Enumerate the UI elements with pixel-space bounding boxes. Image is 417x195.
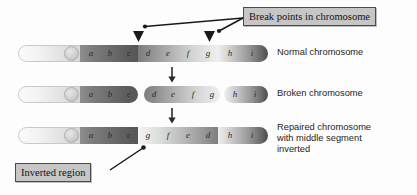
- centromere-icon: [64, 46, 79, 61]
- break-points-leader-left: [145, 18, 243, 27]
- inverted-region-callout: Inverted region: [15, 163, 91, 182]
- gene-label: g: [139, 128, 157, 143]
- centromere-icon: [64, 128, 79, 143]
- broken-chromosome: a b c d e f g h i: [18, 86, 268, 103]
- gene-label: d: [139, 46, 157, 61]
- gene-label: i: [243, 128, 261, 143]
- gene-label: f: [179, 46, 197, 61]
- gene-label: e: [159, 46, 177, 61]
- caption-repaired-line1: Repaired chromosome: [277, 122, 371, 134]
- gene-label: a: [82, 128, 100, 143]
- gene-label: b: [101, 128, 119, 143]
- gene-label: a: [82, 46, 100, 61]
- gene-label: d: [199, 128, 217, 143]
- gene-label: h: [221, 128, 239, 143]
- gene-label: h: [221, 46, 239, 61]
- gene-label: g: [199, 46, 217, 61]
- centromere-icon: [64, 87, 79, 102]
- caption-repaired-line2: with middle segment: [277, 133, 362, 145]
- repaired-chromosome: a b c g f e d h i: [18, 127, 268, 144]
- gene-label: d: [145, 87, 163, 102]
- gene-label: c: [120, 128, 138, 143]
- gene-label: h: [226, 87, 244, 102]
- gene-label: e: [164, 87, 182, 102]
- gene-label: i: [243, 46, 261, 61]
- flow-arrow-2-head-icon: [168, 118, 175, 124]
- inverted-region-leader: [110, 148, 143, 170]
- gene-label: c: [120, 46, 138, 61]
- gene-label: f: [159, 128, 177, 143]
- inversion-diagram: Break points in chromosome Inverted regi…: [0, 0, 417, 195]
- break-points-leader-dot-left: [143, 24, 147, 28]
- caption-normal-chromosome: Normal chromosome: [277, 47, 363, 59]
- gene-label: c: [120, 87, 138, 102]
- break-point-arrow-right-icon: [204, 31, 215, 42]
- caption-broken-chromosome: Broken chromosome: [277, 88, 363, 100]
- flow-arrow-1-head-icon: [168, 77, 175, 83]
- break-point-arrow-left-icon: [133, 31, 144, 42]
- gene-label: b: [101, 87, 119, 102]
- gene-label: f: [184, 87, 202, 102]
- break-points-leader-right: [219, 18, 243, 31]
- caption-repaired-line3: inverted: [277, 144, 310, 156]
- break-points-callout: Break points in chromosome: [243, 7, 376, 26]
- gene-label: e: [179, 128, 197, 143]
- inverted-region-leader-dot: [141, 145, 146, 150]
- gene-label: g: [203, 87, 221, 102]
- normal-chromosome: a b c d e f g h i: [18, 45, 268, 62]
- gene-label: a: [82, 87, 100, 102]
- break-points-leader-dot-right: [217, 29, 221, 33]
- gene-label: i: [246, 87, 264, 102]
- gene-label: b: [101, 46, 119, 61]
